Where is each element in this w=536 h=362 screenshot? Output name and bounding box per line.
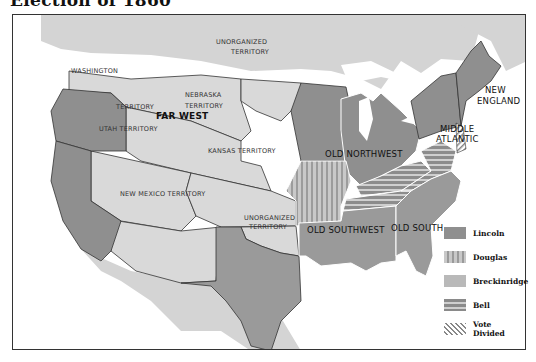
label-nebraska: NEBRASKA — [185, 90, 221, 100]
label-england: ENGLAND — [477, 96, 520, 106]
label-atlantic: ATLANTIC — [436, 134, 479, 144]
legend-label-vote-divided: Vote Divided — [473, 320, 505, 338]
legend-item-lincoln: Lincoln — [444, 222, 534, 244]
vote-divided-swatch-icon — [444, 323, 466, 335]
legend-label-douglas: Douglas — [473, 253, 507, 262]
breckinridge-swatch-icon — [444, 275, 466, 287]
map-legend: Lincoln Douglas Breckinridge Bell Vote D… — [444, 222, 534, 342]
label-unorganized-north: UNORGANIZED — [216, 37, 267, 47]
map-title: Election of 1860 — [10, 0, 171, 10]
region-missouri — [286, 161, 351, 226]
label-utah-territory: UTAH TERRITORY — [99, 124, 158, 134]
legend-label-divided: Divided — [473, 329, 505, 338]
label-washington: WASHINGTON — [71, 66, 118, 76]
label-nebraska-territory: TERRITORY — [185, 101, 223, 111]
label-unorganized-south-territory: TERRITORY — [249, 222, 287, 232]
legend-item-bell: Bell — [444, 294, 534, 316]
label-territory-washington: TERRITORY — [116, 102, 154, 112]
label-new-mexico-territory: NEW MEXICO TERRITORY — [120, 189, 205, 199]
legend-label-bell: Bell — [473, 301, 490, 310]
legend-item-vote-divided: Vote Divided — [444, 318, 534, 340]
label-middle: MIDDLE — [440, 124, 474, 134]
label-old-northwest: OLD NORTHWEST — [325, 149, 403, 159]
legend-label-breckinridge: Breckinridge — [473, 277, 528, 286]
region-oregon — [51, 89, 126, 151]
label-old-south: OLD SOUTH — [391, 223, 443, 233]
label-new: NEW — [485, 85, 506, 95]
legend-label-lincoln: Lincoln — [473, 229, 504, 238]
label-far-west: FAR WEST — [156, 111, 208, 121]
legend-label-vote: Vote — [473, 320, 491, 329]
label-unorganized-north-territory: TERRITORY — [231, 47, 269, 57]
label-kansas-territory: KANSAS TERRITORY — [208, 146, 276, 156]
lincoln-swatch-icon — [444, 227, 466, 239]
legend-item-douglas: Douglas — [444, 246, 534, 268]
label-old-southwest: OLD SOUTHWEST — [307, 225, 385, 235]
legend-item-breckinridge: Breckinridge — [444, 270, 534, 292]
bell-swatch-icon — [444, 299, 466, 311]
douglas-swatch-icon — [444, 251, 466, 263]
